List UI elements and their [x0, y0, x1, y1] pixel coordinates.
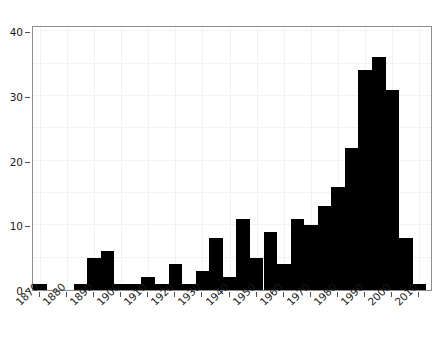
x-tick-mark — [93, 292, 94, 297]
x-tick-mark — [310, 292, 311, 297]
x-tick-label: 1870 — [14, 281, 40, 307]
x-tick-label: 1970 — [285, 281, 311, 307]
x-tick-mark — [283, 292, 284, 297]
x-tick-mark — [174, 292, 175, 297]
x-tick-label: 2010 — [393, 281, 419, 307]
x-tick-label: 1920 — [149, 281, 175, 307]
x-tick-mark — [120, 292, 121, 297]
x-tick-mark — [201, 292, 202, 297]
x-tick-mark — [66, 292, 67, 297]
x-tick-mark — [391, 292, 392, 297]
x-tick-mark — [39, 292, 40, 297]
x-tick-label: 1910 — [122, 281, 148, 307]
x-tick-label: 1880 — [41, 281, 67, 307]
x-tick-label: 1960 — [258, 281, 284, 307]
x-tick-label: 2000 — [366, 281, 392, 307]
x-tick-mark — [364, 292, 365, 297]
x-tick-label: 1940 — [204, 281, 230, 307]
x-tick-label: 1980 — [312, 281, 338, 307]
x-tick-mark — [256, 292, 257, 297]
x-tick-label: 1900 — [95, 281, 121, 307]
x-tick-mark — [337, 292, 338, 297]
x-tick-mark — [229, 292, 230, 297]
x-tick-label: 1950 — [231, 281, 257, 307]
x-axis: 1870188018901900191019201930194019501960… — [0, 0, 440, 339]
x-tick-label: 1930 — [176, 281, 202, 307]
x-tick-mark — [147, 292, 148, 297]
x-tick-mark — [418, 292, 419, 297]
x-tick-label: 1890 — [68, 281, 94, 307]
x-tick-label: 1990 — [339, 281, 365, 307]
histogram-figure: 010203040 187018801890190019101920193019… — [0, 0, 440, 339]
